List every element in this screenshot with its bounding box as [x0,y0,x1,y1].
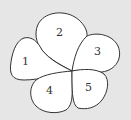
petal-shapes [0,0,131,120]
petal-4-label: 4 [46,85,53,96]
petal-diagram: 1 2 3 4 5 [0,0,131,120]
petal-1-label: 1 [22,56,29,67]
petal-3-label: 3 [94,46,101,57]
petal-2-label: 2 [56,27,63,38]
petal-5-label: 5 [85,82,92,93]
